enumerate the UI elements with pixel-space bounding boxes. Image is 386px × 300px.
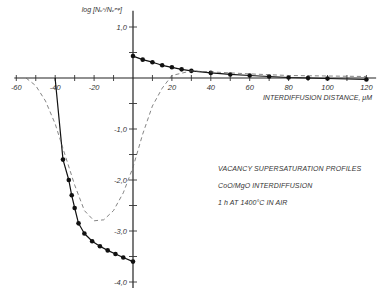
- data-point: [131, 54, 136, 59]
- axes: [14, 11, 376, 288]
- data-point: [76, 221, 81, 226]
- x-axis-title: INTERDIFFUSION DISTANCE, μM: [263, 94, 372, 102]
- data-point: [82, 231, 87, 236]
- y-tick-label: -1,0: [114, 125, 128, 134]
- y-tick-label: -3,0: [114, 227, 128, 236]
- data-point: [131, 259, 136, 264]
- annotations: VACANCY SUPERSATURATION PROFILESCoO/MgO …: [218, 165, 361, 206]
- data-point: [105, 248, 110, 253]
- annotation-line: VACANCY SUPERSATURATION PROFILES: [218, 165, 361, 172]
- data-point: [72, 206, 77, 211]
- x-tick-label: 40: [207, 83, 216, 92]
- data-point: [364, 77, 369, 82]
- series: [26, 54, 369, 264]
- x-tick-label: -60: [11, 83, 23, 92]
- x-tick-label: -20: [89, 83, 101, 92]
- data-point: [325, 76, 330, 81]
- annotation-line: CoO/MgO INTERDIFFUSION: [218, 182, 313, 190]
- x-tick-label: 20: [167, 83, 177, 92]
- data-point: [306, 76, 311, 81]
- y-tick-label: -4,0: [114, 278, 128, 287]
- vacancy-profile-chart: -60-40-20204060801001201,0-1,0-2,0-3,0-4…: [0, 0, 386, 300]
- annotation-line: 1 h AT 1400°C IN AIR: [218, 199, 288, 206]
- tick-labels: -60-40-20204060801001201,0-1,0-2,0-3,0-4…: [11, 23, 374, 287]
- data-point: [150, 60, 155, 65]
- data-point: [113, 252, 118, 257]
- x-tick-label: 120: [360, 83, 373, 92]
- data-point: [140, 57, 145, 62]
- data-point: [121, 255, 126, 260]
- data-point: [160, 63, 165, 68]
- data-point: [69, 193, 74, 198]
- x-tick-label: 100: [321, 83, 334, 92]
- data-point: [209, 71, 214, 76]
- x-tick-label: 60: [246, 83, 255, 92]
- data-point: [179, 67, 184, 72]
- data-point: [98, 244, 103, 249]
- y-tick-label: 1,0: [117, 23, 128, 32]
- data-point: [170, 65, 175, 70]
- y-tick-label: -2,0: [114, 176, 128, 185]
- ticks: [16, 27, 366, 282]
- x-tick-label: 80: [284, 83, 293, 92]
- y-axis-title: log [Nᵥˢ/Nᵥᵉᵠ]: [82, 6, 123, 14]
- data-point: [90, 239, 95, 244]
- data-point: [67, 178, 72, 183]
